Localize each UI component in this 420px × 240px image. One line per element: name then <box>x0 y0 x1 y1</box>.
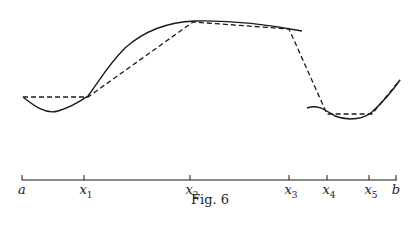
function-curve-left <box>23 21 302 112</box>
axis-ticks <box>22 175 396 180</box>
figure-caption: Fig. 6 <box>0 192 420 207</box>
function-curve-right <box>307 80 400 119</box>
linear-interpolant <box>23 22 400 114</box>
